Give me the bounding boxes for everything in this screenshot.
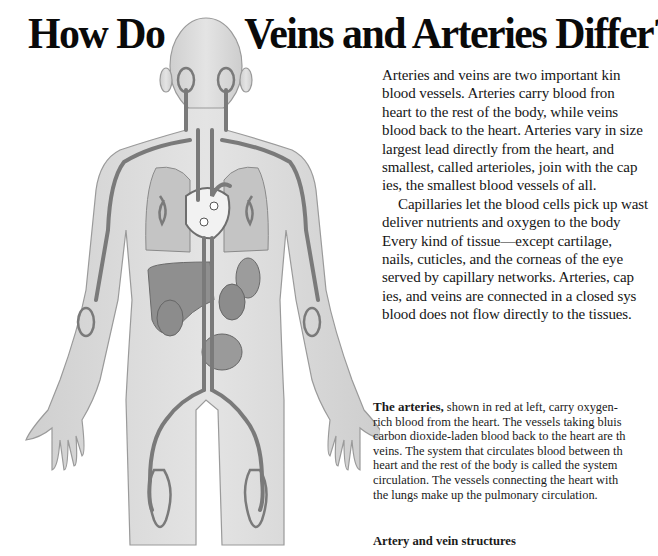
caption-line: heart and the rest of the body is called…	[373, 458, 658, 473]
caption-first-line-rest: shown in red at left, carry oxygen-	[444, 400, 618, 414]
intro-paragraphs: Arteries and veins are two important kin…	[382, 66, 658, 324]
caption-line: veins. The system that circulates blood …	[373, 444, 658, 459]
caption-line: rich blood from the heart. The vessels t…	[373, 415, 658, 430]
caption-line: circulation. The vessels connecting the …	[373, 473, 658, 488]
title-part-1: How Do	[28, 8, 164, 58]
body-diagram-icon	[0, 0, 380, 556]
caption-first-line: The arteries, shown in red at left, carr…	[373, 400, 658, 415]
section-subheading: Artery and vein structures	[373, 534, 516, 549]
intro-line: ies, and veins are connected in a closed…	[382, 287, 658, 305]
intro-line: Every kind of tissue—except cartilage,	[382, 232, 658, 250]
intro-line: blood back to the heart. Arteries vary i…	[382, 121, 658, 139]
intro-line: blood does not flow directly to the tiss…	[382, 305, 658, 323]
circulatory-system-illustration	[0, 0, 380, 556]
intro-line: blood vessels. Arteries carry blood fron	[382, 84, 658, 102]
page-title: How DoVeins and Arteries Differ?	[28, 8, 623, 58]
caption-line: the lungs make up the pulmonary circulat…	[373, 488, 658, 503]
caption-lead: The arteries,	[373, 399, 444, 414]
intro-line: Capillaries let the blood cells pick up …	[382, 195, 658, 213]
intro-line: served by capillary networks. Arteries, …	[382, 268, 658, 286]
intro-line: Arteries and veins are two important kin	[382, 66, 658, 84]
figure-caption: The arteries, shown in red at left, carr…	[373, 400, 658, 502]
intro-line: ies, the smallest blood vessels of all.	[382, 176, 658, 194]
intro-line: heart to the rest of the body, while vei…	[382, 103, 658, 121]
title-part-2: Veins and Arteries Differ?	[244, 8, 658, 58]
intro-line: nails, cuticles, and the corneas of the …	[382, 250, 658, 268]
intro-line: largest lead directly from the heart, an…	[382, 140, 658, 158]
intro-line: deliver nutrients and oxygen to the body	[382, 213, 658, 231]
intro-line: smallest, called arterioles, join with t…	[382, 158, 658, 176]
caption-line: carbon dioxide-laden blood back to the h…	[373, 429, 658, 444]
